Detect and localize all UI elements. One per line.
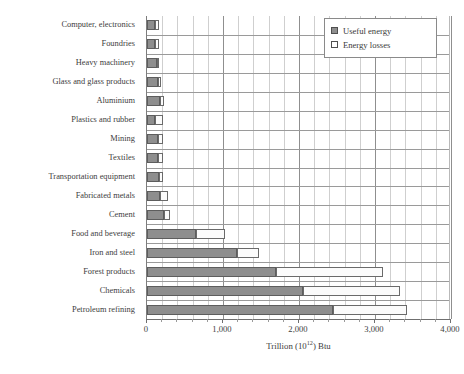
x-tick-minor xyxy=(161,319,162,322)
x-tick-major xyxy=(222,319,223,323)
bar-segment-energy-losses[interactable] xyxy=(276,267,382,277)
category-label: Glass and glass products xyxy=(0,77,139,87)
bar-segment-energy-losses[interactable] xyxy=(157,58,159,68)
bar-segment-energy-losses[interactable] xyxy=(237,248,259,258)
bar-segment-energy-losses[interactable] xyxy=(160,96,165,106)
bar-row[interactable] xyxy=(147,172,451,182)
plot-area xyxy=(146,16,450,319)
bar-segment-energy-losses[interactable] xyxy=(303,286,400,296)
legend-item-energy-losses[interactable]: Energy losses xyxy=(331,38,431,51)
category-label: Forest products xyxy=(0,267,139,277)
filled-square-icon xyxy=(331,27,338,34)
x-tick-minor xyxy=(176,319,177,322)
bar-segment-useful-energy[interactable] xyxy=(147,305,333,315)
hollow-square-icon xyxy=(331,41,338,48)
bar-segment-useful-energy[interactable] xyxy=(147,77,158,87)
category-label: Iron and steel xyxy=(0,248,139,258)
x-tick-major xyxy=(374,319,375,323)
bar-row[interactable] xyxy=(147,77,451,87)
category-label: Plastics and rubber xyxy=(0,115,139,125)
category-label: Fabricated metals xyxy=(0,191,139,201)
row-separator xyxy=(147,130,449,131)
x-axis-title: Trillion (1012) Btu xyxy=(146,341,451,351)
x-tick-minor xyxy=(420,319,421,322)
bar-segment-useful-energy[interactable] xyxy=(147,267,276,277)
category-label: Heavy machinery xyxy=(0,58,139,68)
bar-row[interactable] xyxy=(147,58,451,68)
bar-segment-useful-energy[interactable] xyxy=(147,153,158,163)
row-separator xyxy=(147,186,449,187)
x-tick-label: 3,000 xyxy=(344,324,404,334)
legend-label-useful-energy: Useful energy xyxy=(343,26,391,36)
bar-segment-useful-energy[interactable] xyxy=(147,248,237,258)
legend-item-useful-energy[interactable]: Useful energy xyxy=(331,24,431,37)
row-separator xyxy=(147,92,449,93)
bar-segment-energy-losses[interactable] xyxy=(158,134,164,144)
bar-segment-useful-energy[interactable] xyxy=(147,58,157,68)
x-tick-label: 4,000 xyxy=(420,324,464,334)
row-separator xyxy=(147,149,449,150)
legend-label-energy-losses: Energy losses xyxy=(343,40,390,50)
x-tick-minor xyxy=(192,319,193,322)
x-tick-minor xyxy=(237,319,238,322)
bar-segment-energy-losses[interactable] xyxy=(160,191,168,201)
bar-row[interactable] xyxy=(147,115,451,125)
row-separator xyxy=(147,262,449,263)
x-tick-minor xyxy=(207,319,208,322)
bar-segment-useful-energy[interactable] xyxy=(147,39,155,49)
category-label: Textiles xyxy=(0,153,139,163)
bar-segment-useful-energy[interactable] xyxy=(147,172,159,182)
bar-segment-energy-losses[interactable] xyxy=(333,305,407,315)
x-tick-minor xyxy=(404,319,405,322)
x-tick-major xyxy=(450,319,451,323)
bar-segment-useful-energy[interactable] xyxy=(147,191,160,201)
bar-row[interactable] xyxy=(147,96,451,106)
bar-segment-energy-losses[interactable] xyxy=(155,39,159,49)
category-label: Aluminium xyxy=(0,96,139,106)
bar-segment-energy-losses[interactable] xyxy=(164,210,169,220)
bar-segment-energy-losses[interactable] xyxy=(155,20,159,30)
x-tick-minor xyxy=(252,319,253,322)
row-separator xyxy=(147,205,449,206)
x-tick-label: 1,000 xyxy=(192,324,252,334)
bar-segment-energy-losses[interactable] xyxy=(155,115,163,125)
x-tick-minor xyxy=(313,319,314,322)
bar-row[interactable] xyxy=(147,191,451,201)
bar-row[interactable] xyxy=(147,248,451,258)
bar-row[interactable] xyxy=(147,286,451,296)
bar-row[interactable] xyxy=(147,305,451,315)
x-tick-minor xyxy=(359,319,360,322)
bar-row[interactable] xyxy=(147,153,451,163)
bar-row[interactable] xyxy=(147,229,451,239)
x-axis-title-suffix: ) Btu xyxy=(313,341,331,351)
row-separator xyxy=(147,281,449,282)
bar-segment-useful-energy[interactable] xyxy=(147,20,155,30)
bar-segment-useful-energy[interactable] xyxy=(147,134,158,144)
bar-segment-energy-losses[interactable] xyxy=(196,229,226,239)
bar-row[interactable] xyxy=(147,267,451,277)
bar-segment-useful-energy[interactable] xyxy=(147,229,196,239)
chart-legend: Useful energy Energy losses xyxy=(324,18,437,58)
x-tick-minor xyxy=(435,319,436,322)
x-tick-major xyxy=(146,319,147,323)
bar-segment-useful-energy[interactable] xyxy=(147,115,155,125)
bar-segment-useful-energy[interactable] xyxy=(147,286,303,296)
category-label: Foundries xyxy=(0,39,139,49)
category-label: Petroleum refining xyxy=(0,305,139,315)
bar-segment-energy-losses[interactable] xyxy=(158,153,163,163)
row-separator xyxy=(147,168,449,169)
x-tick-label: 2,000 xyxy=(268,324,328,334)
category-label: Mining xyxy=(0,134,139,144)
bar-row[interactable] xyxy=(147,134,451,144)
bar-segment-useful-energy[interactable] xyxy=(147,96,160,106)
bar-segment-energy-losses[interactable] xyxy=(159,172,163,182)
x-tick-minor xyxy=(344,319,345,322)
bar-row[interactable] xyxy=(147,210,451,220)
bar-segment-energy-losses[interactable] xyxy=(158,77,161,87)
gridline-major xyxy=(451,16,452,319)
bar-segment-useful-energy[interactable] xyxy=(147,210,164,220)
row-separator xyxy=(147,73,449,74)
category-label: Computer, electronics xyxy=(0,20,139,30)
x-axis-title-prefix: Trillion (10 xyxy=(266,341,307,351)
